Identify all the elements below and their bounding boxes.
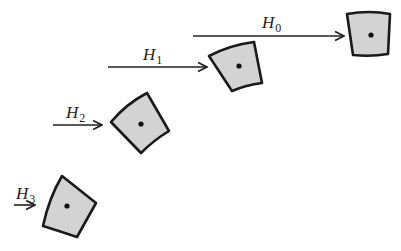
field-item-3: H3 (14, 176, 96, 237)
cell-shape (209, 42, 262, 91)
diagram-canvas: H0H1H2H3 (0, 0, 401, 251)
cell-shape (347, 12, 390, 56)
center-dot-icon (236, 63, 241, 68)
field-label: H3 (15, 184, 35, 206)
field-label: H0 (261, 13, 281, 35)
field-label: H1 (142, 45, 162, 67)
center-dot-icon (64, 203, 69, 208)
center-dot-icon (368, 32, 373, 37)
field-label: H2 (65, 103, 85, 125)
center-dot-icon (138, 121, 143, 126)
diagram-svg: H0H1H2H3 (0, 0, 401, 251)
field-item-1: H1 (108, 42, 262, 91)
field-item-2: H2 (53, 93, 169, 153)
